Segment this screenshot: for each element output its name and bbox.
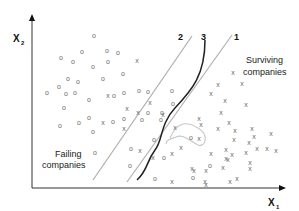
surviving-label-line2: companies <box>243 67 287 77</box>
failing-point-marker: o <box>45 89 49 96</box>
failing-point-marker: o <box>57 83 61 90</box>
failing-point-marker: o <box>92 32 96 39</box>
failing-point-marker: o <box>171 100 175 107</box>
surviving-point-marker: x <box>170 150 174 157</box>
failing-point-marker: o <box>122 115 126 122</box>
failing-point-marker: o <box>128 162 132 169</box>
surviving-point-marker: x <box>204 167 208 174</box>
surviving-point-marker: x <box>148 99 152 106</box>
surviving-point-marker: x <box>179 144 183 151</box>
failing-point-marker: o <box>191 174 195 181</box>
surviving-point-marker: x <box>244 101 248 108</box>
failing-point-marker: o <box>101 75 105 82</box>
surviving-point-marker: x <box>204 181 208 188</box>
failing-point-marker: o <box>208 162 212 169</box>
surviving-point-marker: x <box>265 145 269 152</box>
y-axis-arrow-icon <box>29 14 35 21</box>
surviving-point-marker: x <box>252 133 256 140</box>
surviving-point-marker: x <box>230 151 234 158</box>
x-axis-arrow-icon <box>279 185 286 191</box>
failing-point-marker: o <box>59 54 63 61</box>
failing-point-marker: o <box>80 48 84 55</box>
surviving-point-marker: x <box>233 127 237 134</box>
x-axis-subscript: 1 <box>276 204 280 210</box>
surviving-point-marker: x <box>231 69 235 76</box>
failing-point-marker: o <box>111 118 115 125</box>
surviving-point-marker: x <box>244 149 248 156</box>
surviving-point-marker: x <box>226 156 230 163</box>
failing-point-marker: o <box>146 109 150 116</box>
failing-point-marker: o <box>73 89 77 96</box>
surviving-point-marker: x <box>101 119 105 126</box>
failing-point-marker: o <box>77 119 81 126</box>
surviving-point-marker: x <box>250 125 254 132</box>
surviving-point-marker: x <box>248 159 252 166</box>
surviving-label-line1: Surviving <box>246 55 283 65</box>
failing-point-marker: o <box>122 89 126 96</box>
failing-point-marker: o <box>62 104 66 111</box>
surviving-point-marker: x <box>235 175 239 182</box>
surviving-point-marker: x <box>122 125 126 132</box>
surviving-point-marker: x <box>247 139 251 146</box>
surviving-point-marker: x <box>106 92 110 99</box>
surviving-point-marker: x <box>199 121 203 128</box>
surviving-point-marker: x <box>255 145 259 152</box>
failing-point-marker: o <box>170 87 174 94</box>
surviving-point-marker: x <box>240 80 244 87</box>
failing-point-marker: o <box>71 58 75 65</box>
failing-point-marker: o <box>129 145 133 152</box>
failing-point-marker: o <box>162 154 166 161</box>
surviving-point-marker: x <box>173 124 177 131</box>
failing-point-marker: o <box>146 88 150 95</box>
failing-point-marker: o <box>91 63 95 70</box>
surviving-point-marker: x <box>223 97 227 104</box>
failing-point-marker: o <box>116 49 120 56</box>
failing-point-marker: o <box>112 92 116 99</box>
surviving-point-marker: x <box>136 109 140 116</box>
classification-diagram: X 2 X 1 2 3 1 Failing companies Survivin… <box>0 0 299 211</box>
failing-point-marker: o <box>137 87 141 94</box>
surviving-point-marker: x <box>151 154 155 161</box>
failing-point-marker: o <box>58 122 62 129</box>
surviving-point-marker: x <box>219 109 223 116</box>
surviving-point-marker: x <box>197 135 201 142</box>
y-axis-label: X <box>13 33 20 44</box>
boundary-label-3: 3 <box>201 32 206 42</box>
x-axis-label: X <box>268 197 275 208</box>
surviving-point-marker: x <box>232 136 236 143</box>
failing-point-marker: o <box>153 175 157 182</box>
failing-point-marker: o <box>106 58 110 65</box>
failing-point-marker: o <box>64 90 68 97</box>
failing-point-marker: o <box>91 128 95 135</box>
surviving-point-marker: x <box>216 81 220 88</box>
failing-point-marker: o <box>105 47 109 54</box>
surviving-point-marker: x <box>190 165 194 172</box>
failing-point-marker: o <box>93 149 97 156</box>
surviving-point-marker: x <box>170 178 174 185</box>
surviving-point-marker: x <box>248 165 252 172</box>
surviving-point-marker: x <box>227 119 231 126</box>
surviving-point-marker: x <box>209 150 213 157</box>
surviving-point-marker: x <box>274 147 278 154</box>
surviving-point-marker: x <box>209 90 213 97</box>
failing-point-marker: o <box>87 96 91 103</box>
failing-point-marker: o <box>121 70 125 77</box>
surviving-point-marker: x <box>138 147 142 154</box>
failing-point-marker: o <box>140 116 144 123</box>
surviving-point-marker: x <box>228 178 232 185</box>
y-axis-subscript: 2 <box>21 40 25 46</box>
failing-point-marker: o <box>76 78 80 85</box>
failing-label-line1: Failing <box>55 149 82 159</box>
boundary-label-2: 2 <box>178 32 183 42</box>
surviving-point-marker: x <box>224 146 228 153</box>
surviving-point-marker: x <box>216 125 220 132</box>
failing-point-marker: o <box>189 134 193 141</box>
boundary-label-1: 1 <box>234 32 239 42</box>
surviving-point-marker: x <box>125 105 129 112</box>
failing-label-line2: companies <box>42 160 86 170</box>
surviving-point-marker: x <box>269 130 273 137</box>
surviving-point-marker: x <box>135 57 139 64</box>
failing-point-marker: o <box>152 136 156 143</box>
failing-point-marker: o <box>87 114 91 121</box>
failing-point-marker: o <box>66 75 70 82</box>
